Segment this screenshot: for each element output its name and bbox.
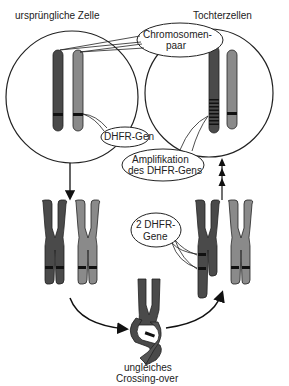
label-crossing-1: ungleiches — [124, 362, 172, 373]
right-dark-chromosome — [195, 200, 219, 298]
label-chromosome-pair-1: Chromosomen- — [143, 29, 212, 40]
right-light-chromosome — [228, 200, 252, 284]
label-original-cell: ursprüngliche Zelle — [15, 10, 100, 21]
crossing-over-chromosome — [130, 279, 161, 365]
arrows-up — [219, 158, 226, 200]
left-chromosome-pair — [42, 200, 99, 284]
label-two-dhfr-2: Gene — [143, 231, 167, 242]
left-light-chromosome — [75, 200, 99, 284]
label-daughter-cells: Tochterzellen — [193, 10, 252, 21]
label-amplification-2: des DHFR-Gens — [128, 165, 202, 176]
right-chromosome-pair — [195, 200, 252, 298]
label-crossing-2: Crossing-over — [116, 373, 178, 384]
label-amplification-1: Amplifikation — [132, 154, 189, 165]
arrow-from-crossing-over — [166, 293, 222, 328]
label-dhfr-gene: DHFR-Gen — [104, 131, 154, 142]
label-two-dhfr-1: 2 DHFR- — [136, 219, 175, 230]
arrow-to-crossing-over — [70, 298, 126, 329]
dhfr-amplification-diagram: ursprüngliche Zelle Tochterzellen Chromo… — [0, 0, 289, 386]
label-chromosome-pair-2: paar — [166, 40, 186, 51]
diagram-graphics — [0, 0, 289, 386]
left-dark-chromosome — [42, 200, 66, 284]
